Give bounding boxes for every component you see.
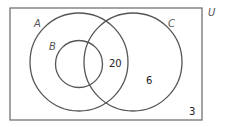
- set-b-label: B: [49, 41, 56, 52]
- universe-label: U: [208, 7, 216, 18]
- set-b-circle: [56, 41, 103, 88]
- set-c-label: C: [168, 18, 175, 29]
- region-a-and-c-value: 20: [109, 58, 122, 69]
- venn-diagram: U A B C 20 6 3: [0, 0, 225, 127]
- set-a-label: A: [33, 18, 41, 29]
- region-c-only-value: 6: [146, 75, 152, 86]
- region-outside-value: 3: [189, 106, 195, 117]
